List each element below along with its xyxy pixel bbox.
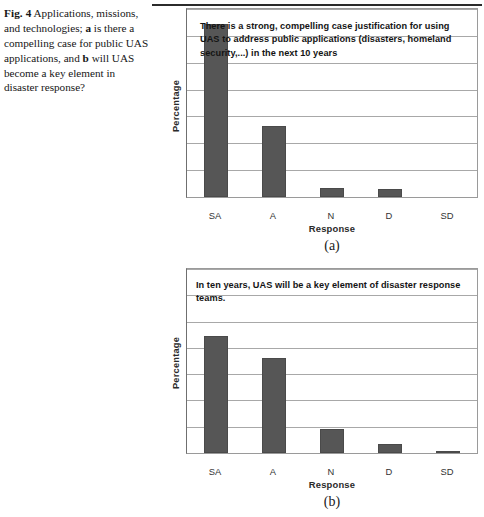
y-axis-tick-mark xyxy=(186,269,187,270)
gridline xyxy=(187,427,477,428)
chart-panel-a: Percentage 010203040506070 There is a st… xyxy=(152,8,482,208)
figure-caption: Fig. 4 Applications, missions, and techn… xyxy=(4,6,150,95)
chart-title: In ten years, UAS will be a key element … xyxy=(196,279,476,306)
x-axis-label: Response xyxy=(186,223,478,234)
x-axis-tick-mark xyxy=(245,453,246,454)
chart-panel-b: Percentage 010203040506070 In ten years,… xyxy=(152,268,482,458)
y-axis-tick-mark xyxy=(186,427,187,428)
plot-wrapper: 010203040506070 In ten years, UAS will b… xyxy=(186,268,478,454)
y-axis-tick-mark xyxy=(186,322,187,323)
y-axis-tick-mark xyxy=(186,170,187,171)
chart-title: There is a strong, compelling case justi… xyxy=(200,20,462,60)
gridline xyxy=(187,400,477,401)
gridline xyxy=(187,90,477,91)
x-axis-tick-mark xyxy=(419,197,420,198)
x-axis-tick-mark xyxy=(303,453,304,454)
panel-letter-a: (a) xyxy=(186,238,478,254)
bar-sa xyxy=(204,336,227,453)
page-top-rule xyxy=(152,4,482,6)
y-axis-tick-mark xyxy=(186,143,187,144)
x-axis-tick-label: A xyxy=(270,466,276,477)
y-axis-tick-mark xyxy=(186,116,187,117)
y-axis-tick-mark xyxy=(186,453,187,454)
gridline xyxy=(187,374,477,375)
gridline xyxy=(187,348,477,349)
figure-caption-label: Fig. 4 xyxy=(4,7,31,19)
x-axis-tick-label: SD xyxy=(440,210,453,221)
x-axis-label: Response xyxy=(186,479,478,490)
bar-n xyxy=(320,429,343,453)
x-axis-tick-mark xyxy=(419,453,420,454)
x-axis-tick-label: SD xyxy=(440,466,453,477)
y-axis-tick-mark xyxy=(186,374,187,375)
y-axis-label: Percentage xyxy=(171,80,181,132)
x-axis-tick-label: SA xyxy=(209,466,222,477)
gridline xyxy=(187,143,477,144)
bar-sd xyxy=(436,451,459,453)
x-axis-tick-mark xyxy=(477,453,478,454)
y-axis-tick-mark xyxy=(186,400,187,401)
x-axis-tick-label: N xyxy=(328,210,335,221)
gridline xyxy=(187,322,477,323)
y-axis-tick-mark xyxy=(186,36,187,37)
x-axis-tick-label: A xyxy=(270,210,276,221)
y-axis-tick-mark xyxy=(186,63,187,64)
y-axis-tick-mark xyxy=(186,197,187,198)
x-axis-tick-label: SA xyxy=(209,210,222,221)
plot-wrapper: 010203040506070 There is a strong, compe… xyxy=(186,8,478,198)
x-axis-tick-label: D xyxy=(386,210,393,221)
gridline xyxy=(187,9,477,10)
bar-n xyxy=(320,188,343,197)
gridline xyxy=(187,63,477,64)
x-axis-tick-mark xyxy=(477,197,478,198)
gridline xyxy=(187,116,477,117)
y-axis-tick-mark xyxy=(186,295,187,296)
x-axis-tick-label: D xyxy=(386,466,393,477)
y-axis-tick-mark xyxy=(186,9,187,10)
y-axis-tick-mark xyxy=(186,90,187,91)
bar-a xyxy=(262,358,285,453)
x-axis-tick-mark xyxy=(361,453,362,454)
bar-d xyxy=(378,444,401,453)
bar-a xyxy=(262,126,285,197)
gridline xyxy=(187,170,477,171)
gridline xyxy=(187,269,477,270)
panel-letter-b: (b) xyxy=(186,494,478,510)
y-axis-label: Percentage xyxy=(171,337,181,389)
x-axis-tick-mark xyxy=(361,197,362,198)
x-axis-tick-mark xyxy=(245,197,246,198)
y-axis-tick-mark xyxy=(186,348,187,349)
x-axis-tick-label: N xyxy=(328,466,335,477)
x-axis-tick-mark xyxy=(303,197,304,198)
bar-d xyxy=(378,189,401,197)
